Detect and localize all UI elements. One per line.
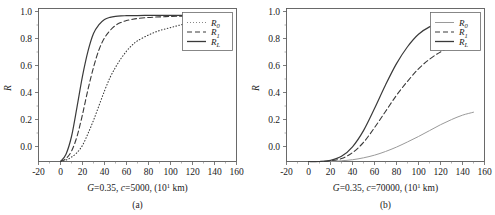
panel-b: -20 0 20 40 60 80 100 120 140 160 0.0 0.… <box>248 0 495 215</box>
y-tick-label: 0.8 <box>20 34 32 44</box>
y-tick-label: 0.2 <box>268 115 280 125</box>
y-tick-label: 0.0 <box>20 142 32 152</box>
x-tick-label: 20 <box>78 167 88 177</box>
y-tick-label: 0.8 <box>268 34 280 44</box>
panel-a: -20 0 20 40 60 80 100 120 140 160 0.0 0.… <box>0 0 248 215</box>
x-tick-label: 20 <box>325 167 335 177</box>
x-tick-label: 0 <box>306 167 311 177</box>
panel-a-plot: -20 0 20 40 60 80 100 120 140 160 0.0 0.… <box>0 0 248 215</box>
x-tick-labels-b: -20 0 20 40 60 80 100 120 140 160 <box>280 167 492 177</box>
y-tick-labels-a: 0.0 0.2 0.4 0.6 0.8 1.0 <box>20 7 32 152</box>
x-tick-label: 160 <box>477 167 492 177</box>
x-axis-title-b: G=0.35, c=70000, (101 km) <box>332 182 437 195</box>
x-tick-label: 140 <box>207 167 222 177</box>
y-axis-title-b: R <box>251 85 261 92</box>
x-tick-label: 60 <box>122 167 132 177</box>
x-tick-label: 60 <box>369 167 379 177</box>
y-tick-label: 0.6 <box>268 61 280 71</box>
legend-a[interactable]: R0 R1 RL <box>183 13 233 51</box>
x-tick-label: 160 <box>229 167 244 177</box>
figure-container: -20 0 20 40 60 80 100 120 140 160 0.0 0.… <box>0 0 495 215</box>
panel-caption-a: (a) <box>132 200 143 211</box>
x-tick-label: 40 <box>347 167 357 177</box>
y-tick-label: 0.4 <box>20 88 32 98</box>
x-tick-label: 40 <box>100 167 110 177</box>
x-tick-label: 120 <box>185 167 200 177</box>
y-tick-label: 1.0 <box>268 7 280 17</box>
x-tick-label: 120 <box>433 167 448 177</box>
x-tick-label: 100 <box>163 167 178 177</box>
x-tick-labels-a: -20 0 20 40 60 80 100 120 140 160 <box>32 167 244 177</box>
y-tick-label: 1.0 <box>20 7 32 17</box>
x-tick-label: -20 <box>32 167 45 177</box>
x-tick-label: 80 <box>144 167 154 177</box>
x-tick-label: 100 <box>411 167 426 177</box>
y-tick-label: 0.6 <box>20 61 32 71</box>
y-tick-label: 0.4 <box>268 88 280 98</box>
x-axis-title-a: G=0.35, c=5000, (101 km) <box>87 182 188 195</box>
y-tick-labels-b: 0.0 0.2 0.4 0.6 0.8 1.0 <box>268 7 280 152</box>
y-tick-label: 0.0 <box>268 142 280 152</box>
y-tick-label: 0.2 <box>20 115 32 125</box>
x-tick-label: 0 <box>58 167 63 177</box>
x-tick-label: 80 <box>391 167 401 177</box>
x-tick-label: 140 <box>455 167 470 177</box>
panel-caption-b: (b) <box>379 200 390 211</box>
panel-b-plot: -20 0 20 40 60 80 100 120 140 160 0.0 0.… <box>248 0 495 215</box>
y-axis-title-a: R <box>3 85 13 92</box>
x-tick-label: -20 <box>280 167 293 177</box>
legend-b[interactable]: R0 R1 RL <box>430 13 480 51</box>
